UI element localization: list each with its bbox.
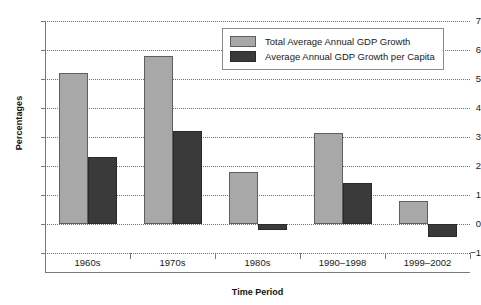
x-axis-tick [470,253,471,259]
x-axis-tick-label: 1990–1998 [300,258,385,268]
x-axis-line [45,272,470,273]
gdp-growth-bar-chart: Percentages 76543210−1 1960s1970s1980s19… [0,0,481,305]
gridline [45,137,470,138]
bar-total-1990-1998 [314,133,343,224]
bar-capita-1960s [88,157,117,224]
x-axis-tick-label: 1980s [215,258,300,268]
legend-swatch-total [230,36,256,47]
legend-label: Total Average Annual GDP Growth [265,37,410,47]
gridline [45,253,470,254]
x-axis-tick-label: 1960s [45,258,130,268]
x-axis-title: Time Period [45,287,470,297]
bar-total-1970s [144,56,173,224]
x-axis-tick-label: 1970s [130,258,215,268]
legend-entry: Total Average Annual GDP Growth [230,34,435,49]
legend-swatch-capita [230,51,256,62]
x-axis-tick-label: 1999–2002 [385,258,470,268]
bar-total-1960s [59,73,88,224]
chart-legend: Total Average Annual GDP GrowthAverage A… [222,28,444,70]
legend-entry: Average Annual GDP Growth per Capita [230,49,435,64]
bar-capita-1980s [258,224,287,230]
bar-total-1980s [229,172,258,224]
bar-capita-1999-2002 [428,224,457,237]
gridline [45,79,470,80]
gridline [45,108,470,109]
bar-capita-1970s [173,131,202,224]
gridline [45,21,470,22]
legend-label: Average Annual GDP Growth per Capita [265,52,435,62]
bar-capita-1990-1998 [343,183,372,224]
y-axis-title: Percentages [14,73,24,173]
bar-total-1999-2002 [399,201,428,224]
